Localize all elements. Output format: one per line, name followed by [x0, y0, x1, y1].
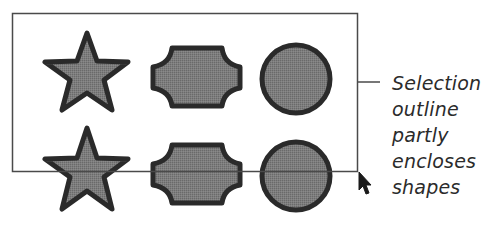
- callout-line-1: Selection: [392, 70, 481, 96]
- circle-shape[interactable]: [262, 142, 330, 210]
- notched-octagon-shape[interactable]: [153, 145, 240, 203]
- callout-line-5: shapes: [392, 174, 481, 200]
- callout-line-2: outline: [392, 96, 481, 122]
- circle-shape[interactable]: [262, 45, 330, 113]
- callout-line-4: encloses: [392, 148, 481, 174]
- callout-line-3: partly: [392, 122, 481, 148]
- shape-row-2: [45, 128, 330, 210]
- arrow-cursor-icon: [359, 172, 371, 194]
- star-shape[interactable]: [45, 128, 128, 209]
- star-shape[interactable]: [45, 33, 128, 110]
- notched-octagon-shape[interactable]: [153, 48, 240, 106]
- callout-label: Selection outline partly encloses shapes: [392, 70, 481, 200]
- shape-row-1: [45, 33, 330, 113]
